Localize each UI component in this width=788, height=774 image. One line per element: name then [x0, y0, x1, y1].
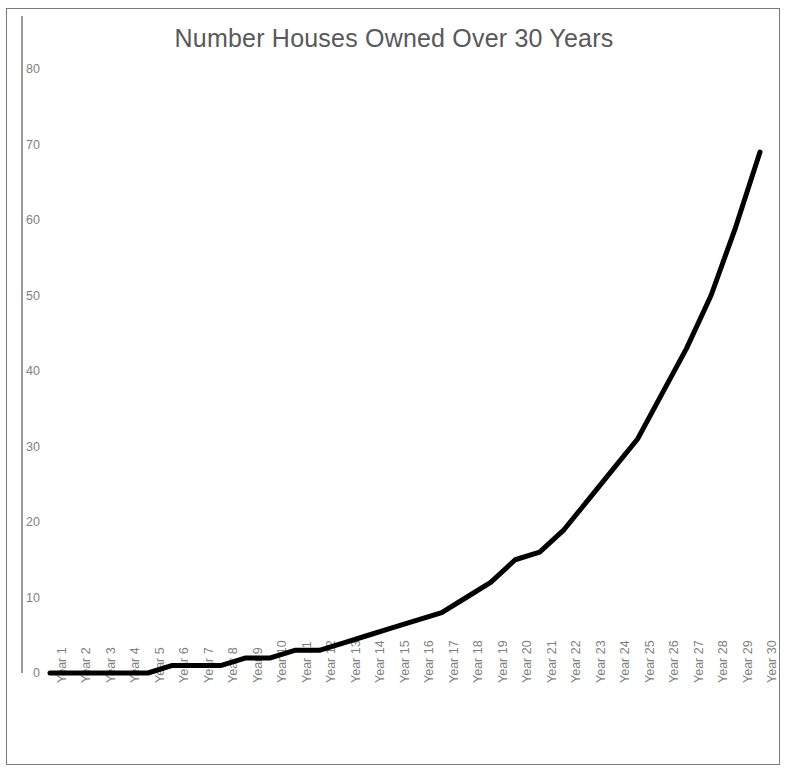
- chart-container: Number Houses Owned Over 30 Years 010203…: [0, 0, 788, 774]
- line-series-houses-owned: [50, 152, 760, 673]
- data-series-layer: [0, 0, 788, 774]
- plot-area: 01020304050607080 Year 1Year 2Year 3Year…: [0, 0, 788, 774]
